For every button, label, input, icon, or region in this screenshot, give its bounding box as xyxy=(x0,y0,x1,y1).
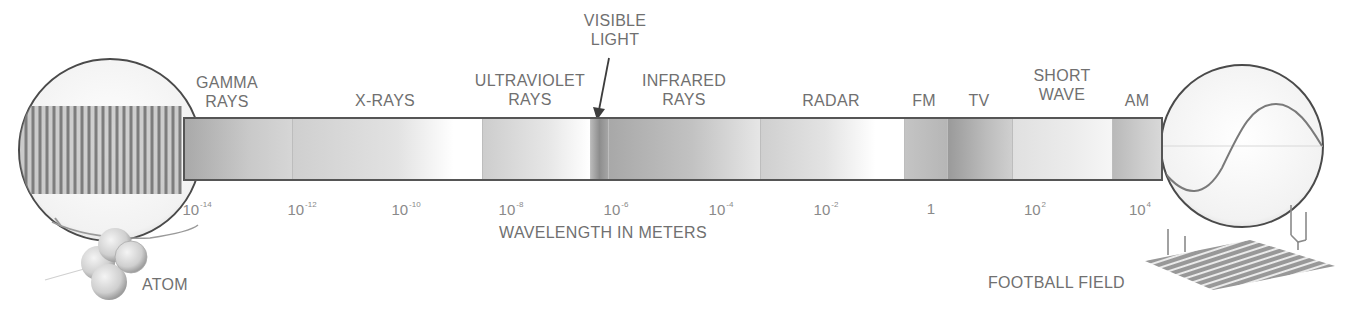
visible-light-arrow xyxy=(593,58,609,120)
tick-1e-8: 10-8 xyxy=(499,200,524,218)
band-ultraviolet xyxy=(482,119,590,179)
tick-1: 1 xyxy=(927,200,935,217)
label-visible-line1: VISIBLE xyxy=(584,11,647,30)
band-shortwave xyxy=(1012,119,1112,179)
band-am xyxy=(1112,119,1161,179)
label-gamma-line1: GAMMA xyxy=(196,73,258,92)
label-short-wave: SHORT WAVE xyxy=(1033,66,1090,104)
band-tv xyxy=(947,119,1012,179)
label-shortwave-line1: SHORT xyxy=(1033,66,1090,85)
tick-1e-6: 10-6 xyxy=(604,200,629,218)
band-xrays xyxy=(292,119,482,179)
label-fm: FM xyxy=(912,91,936,110)
band-gamma xyxy=(185,119,292,179)
football-field-caption: FOOTBALL FIELD xyxy=(988,274,1125,292)
band-infrared xyxy=(608,119,760,179)
tick-1e-2: 10-2 xyxy=(814,200,839,218)
radio-wave-magnifier xyxy=(1160,65,1324,227)
gamma-wave-magnifier xyxy=(19,59,201,241)
axis-title: WAVELENGTH IN METERS xyxy=(499,224,707,242)
band-fm xyxy=(904,119,947,179)
label-infrared-line1: INFRARED xyxy=(642,71,726,90)
tick-1e-12: 10-12 xyxy=(287,200,316,218)
band-radar xyxy=(760,119,904,179)
label-am: AM xyxy=(1125,91,1150,110)
label-visible-line2: LIGHT xyxy=(584,30,647,49)
label-tv: TV xyxy=(968,91,989,110)
label-ultraviolet-line2: RAYS xyxy=(475,90,585,109)
label-gamma-line2: RAYS xyxy=(196,92,258,111)
label-shortwave-line2: WAVE xyxy=(1033,85,1090,104)
label-infrared-line2: RAYS xyxy=(642,90,726,109)
tick-1e-14: 10-14 xyxy=(182,200,211,218)
tick-1e2: 102 xyxy=(1024,200,1046,218)
tick-1e-10: 10-10 xyxy=(391,200,420,218)
label-xrays: X-RAYS xyxy=(355,91,415,110)
label-visible-light: VISIBLE LIGHT xyxy=(584,11,647,49)
label-gamma-rays: GAMMA RAYS xyxy=(196,73,258,111)
spectrum-bar xyxy=(183,117,1163,181)
atom-caption: ATOM xyxy=(142,276,188,294)
label-radar: RADAR xyxy=(802,91,860,110)
band-visible xyxy=(590,119,608,179)
label-infrared-rays: INFRARED RAYS xyxy=(642,71,726,109)
label-ultraviolet-rays: ULTRAVIOLET RAYS xyxy=(475,71,585,109)
label-ultraviolet-line1: ULTRAVIOLET xyxy=(475,71,585,90)
tick-1e-4: 10-4 xyxy=(709,200,734,218)
tick-1e4: 104 xyxy=(1129,200,1151,218)
